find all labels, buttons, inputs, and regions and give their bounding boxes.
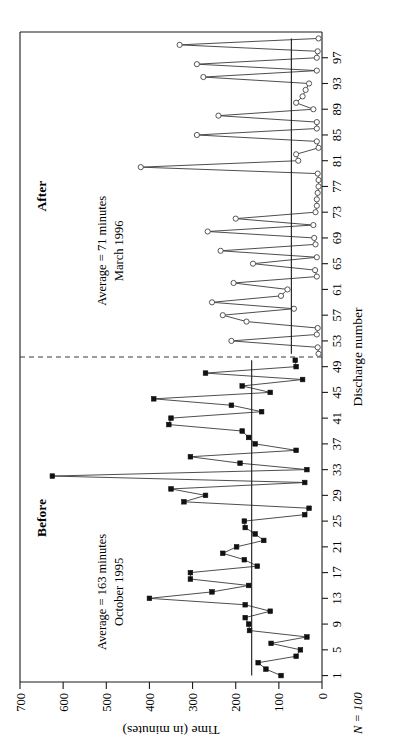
- data-point-before: [302, 512, 307, 517]
- x-tick-label: 41: [330, 412, 344, 425]
- data-point-before: [188, 577, 193, 582]
- data-point-before: [300, 377, 305, 382]
- data-point-after: [278, 293, 283, 298]
- data-point-before: [294, 448, 299, 453]
- data-point-before: [167, 422, 172, 427]
- data-point-after: [314, 255, 319, 260]
- data-point-before: [246, 435, 251, 440]
- x-tick-label: 45: [330, 386, 344, 399]
- data-point-before: [243, 602, 248, 607]
- x-tick-label: 61: [330, 283, 344, 296]
- data-point-after: [315, 345, 320, 350]
- data-point-before: [169, 487, 174, 492]
- data-point-before: [268, 609, 273, 614]
- x-axis-title: Discharge number: [350, 307, 365, 407]
- data-point-before: [238, 461, 243, 466]
- data-point-after: [316, 184, 321, 189]
- data-point-after: [201, 74, 206, 79]
- y-tick-label: 600: [57, 693, 71, 712]
- data-point-after: [306, 81, 311, 86]
- data-point-before: [147, 596, 152, 601]
- x-tick-label: 5: [330, 647, 344, 653]
- data-point-before: [169, 416, 174, 421]
- data-point-before: [229, 403, 234, 408]
- data-point-after: [315, 190, 320, 195]
- data-point-after: [314, 126, 319, 131]
- data-point-before: [188, 454, 193, 459]
- data-point-before: [264, 667, 269, 672]
- data-point-after: [314, 332, 319, 337]
- x-tick-label: 1: [330, 672, 344, 678]
- data-point-after: [294, 100, 299, 105]
- data-point-before: [293, 358, 298, 363]
- data-point-after: [138, 165, 143, 170]
- data-point-before: [242, 557, 247, 562]
- data-point-before: [188, 570, 193, 575]
- data-point-before: [259, 409, 264, 414]
- series-line-before: [52, 360, 309, 675]
- y-tick-label: 500: [100, 693, 114, 712]
- data-point-before: [242, 519, 247, 524]
- x-tick-label: 25: [330, 515, 344, 528]
- data-point-before: [268, 390, 273, 395]
- data-point-after: [311, 222, 316, 227]
- annotation-period-before: October 1995: [112, 558, 126, 626]
- data-point-before: [243, 525, 248, 530]
- data-point-before: [253, 442, 258, 447]
- data-point-after: [294, 152, 299, 157]
- data-point-after: [313, 242, 318, 247]
- x-tick-label: 17: [330, 566, 344, 579]
- data-point-before: [50, 474, 55, 479]
- phase-label-before: Before: [34, 499, 49, 537]
- data-point-after: [291, 306, 296, 311]
- data-point-after: [313, 268, 318, 273]
- data-point-before: [203, 371, 208, 376]
- data-point-after: [315, 171, 320, 176]
- data-point-before: [302, 480, 307, 485]
- data-point-after: [314, 203, 319, 208]
- data-point-before: [243, 615, 248, 620]
- x-tick-label: 49: [330, 360, 344, 373]
- x-tick-label: 53: [330, 335, 344, 348]
- data-point-after: [316, 177, 321, 182]
- annotation-average-after: Average = 71 minutes: [95, 196, 109, 306]
- phase-label-after: After: [34, 181, 49, 212]
- plot-area: 0100200300400500600700Time (in minutes)1…: [14, 32, 366, 738]
- data-point-after: [314, 119, 319, 124]
- run-chart: 0100200300400500600700Time (in minutes)1…: [0, 0, 410, 754]
- data-point-after: [314, 274, 319, 279]
- data-point-after: [315, 49, 320, 54]
- annotation-period-after: March 1996: [112, 220, 126, 281]
- data-point-after: [314, 197, 319, 202]
- data-point-after: [194, 62, 199, 67]
- x-tick-label: 21: [330, 541, 344, 554]
- y-tick-label: 200: [229, 693, 243, 712]
- data-point-after: [218, 248, 223, 253]
- x-tick-label: 57: [330, 309, 344, 322]
- data-point-before: [294, 364, 299, 369]
- x-tick-label: 77: [330, 180, 344, 193]
- data-point-before: [269, 641, 274, 646]
- data-point-after: [316, 145, 321, 150]
- data-point-after: [303, 87, 308, 92]
- data-point-before: [240, 384, 245, 389]
- data-point-before: [240, 429, 245, 434]
- data-point-after: [285, 287, 290, 292]
- data-point-after: [311, 107, 316, 112]
- data-point-after: [209, 300, 214, 305]
- data-point-after: [205, 229, 210, 234]
- y-tick-label: 300: [186, 693, 200, 712]
- data-point-after: [316, 351, 321, 356]
- x-tick-label: 37: [330, 438, 344, 451]
- data-point-after: [231, 280, 236, 285]
- data-point-after: [216, 113, 221, 118]
- x-tick-label: 73: [330, 206, 344, 219]
- data-point-after: [229, 338, 234, 343]
- x-tick-label: 13: [330, 592, 344, 605]
- y-tick-label: 400: [143, 693, 157, 712]
- data-point-before: [294, 654, 299, 659]
- data-point-after: [250, 261, 255, 266]
- data-point-before: [305, 467, 310, 472]
- rotated-figure-wrapper: 0100200300400500600700Time (in minutes)1…: [0, 0, 410, 754]
- data-point-before: [305, 635, 310, 640]
